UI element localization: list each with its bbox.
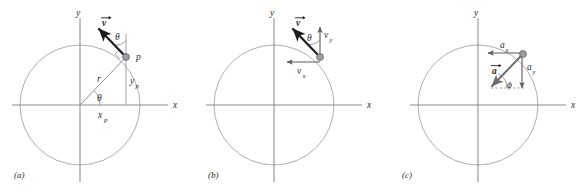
ax-component-base: a xyxy=(500,40,505,50)
acceleration-vector-label-text: a xyxy=(492,66,497,76)
x-component-sub: p xyxy=(103,116,108,123)
velocity-vector-label-text: v xyxy=(296,18,301,28)
y-component-label: y p xyxy=(129,76,140,89)
theta-point-label: θ xyxy=(115,32,120,42)
y-axis-label: y xyxy=(269,8,275,18)
vx-component-sub: x xyxy=(302,72,306,79)
x-axis-label: x xyxy=(570,100,576,110)
velocity-vector-label: v xyxy=(101,16,111,28)
particle-point xyxy=(520,51,527,58)
theta-origin-label: θ xyxy=(97,93,102,103)
velocity-vector xyxy=(99,29,125,56)
y-axis-label: y xyxy=(473,8,479,18)
vx-component-base: v xyxy=(297,66,302,76)
ay-component-sub: y xyxy=(532,68,537,75)
radius-label: r xyxy=(97,74,101,84)
vx-component-label: v x xyxy=(297,66,306,79)
panel-a: x y v θ p xyxy=(0,0,194,192)
x-component-base: x xyxy=(97,110,103,120)
panel-c-caption: (c) xyxy=(402,170,412,180)
velocity-vector xyxy=(293,29,319,56)
radius-line xyxy=(80,57,126,105)
ax-component-sub: x xyxy=(505,46,509,53)
ay-component-base: a xyxy=(527,62,532,72)
velocity-vector-label-text: v xyxy=(102,18,107,28)
physics-figure-circular-motion: x y v θ p xyxy=(0,0,581,192)
vy-component-base: v xyxy=(324,30,329,40)
vy-component-label: v y xyxy=(324,30,334,43)
particle-point xyxy=(317,54,324,61)
velocity-vector-label: v xyxy=(295,16,305,28)
y-component-base: y xyxy=(129,76,135,86)
vy-component-sub: y xyxy=(329,36,334,43)
phi-label: ϕ xyxy=(507,80,512,90)
panel-b: x y v θ v y v x xyxy=(194,0,388,192)
point-p-label: p xyxy=(135,52,141,62)
x-component-label: x p xyxy=(97,110,108,123)
panel-c: x y a ϕ a x a xyxy=(388,0,581,192)
theta-label: θ xyxy=(307,33,312,43)
x-axis-label: x xyxy=(366,100,372,110)
x-axis-label: x xyxy=(172,100,178,110)
panel-b-caption: (b) xyxy=(208,170,219,180)
y-axis-label: y xyxy=(75,8,81,18)
y-component-sub: p xyxy=(135,82,140,89)
panel-a-caption: (a) xyxy=(14,170,25,180)
particle-point xyxy=(123,54,130,61)
